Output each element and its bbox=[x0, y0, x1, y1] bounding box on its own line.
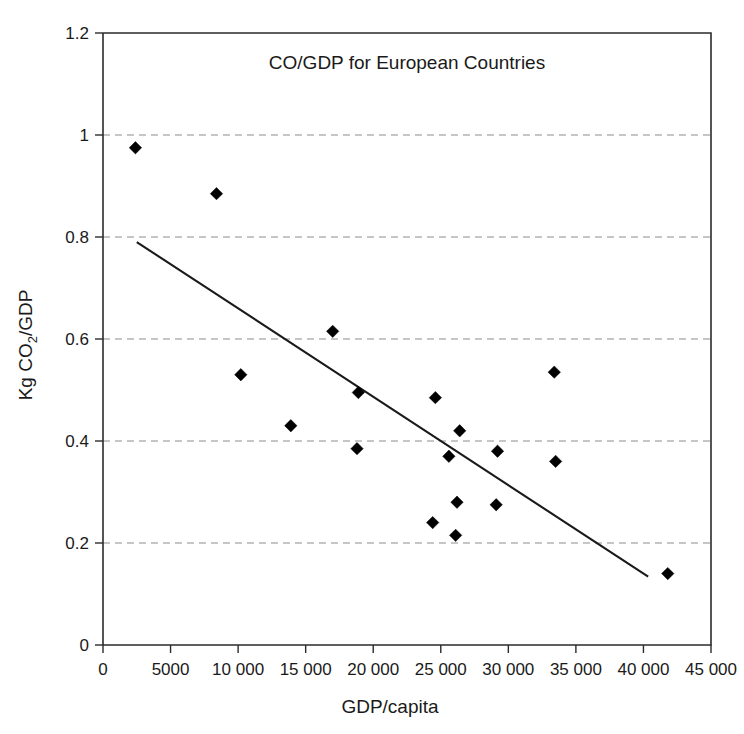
x-tick-label: 20 000 bbox=[347, 660, 399, 679]
x-tick-label: 5000 bbox=[152, 660, 190, 679]
x-tick-label: 15 000 bbox=[280, 660, 332, 679]
x-tick-label: 35 000 bbox=[550, 660, 602, 679]
y-axis-title-subscript: 2 bbox=[25, 336, 40, 343]
x-tick-label: 30 000 bbox=[482, 660, 534, 679]
y-tick-label: 0.4 bbox=[65, 432, 89, 451]
y-tick-label: 0.8 bbox=[65, 228, 89, 247]
x-tick-label: 40 000 bbox=[617, 660, 669, 679]
y-tick-label: 0.2 bbox=[65, 534, 89, 553]
y-tick-label: 0 bbox=[80, 636, 89, 655]
y-tick-label: 0.6 bbox=[65, 330, 89, 349]
x-tick-label: 10 000 bbox=[212, 660, 264, 679]
chart-background bbox=[0, 0, 744, 734]
x-tick-label: 45 000 bbox=[685, 660, 737, 679]
scatter-chart: 0500010 00015 00020 00025 00030 00035 00… bbox=[0, 0, 744, 734]
y-axis-title-suffix: /GDP bbox=[15, 290, 36, 336]
x-tick-label: 0 bbox=[98, 660, 107, 679]
x-axis-title: GDP/capita bbox=[341, 696, 439, 717]
chart-title: CO/GDP for European Countries bbox=[269, 52, 545, 73]
chart-canvas: 0500010 00015 00020 00025 00030 00035 00… bbox=[0, 0, 744, 734]
y-tick-label: 1 bbox=[80, 126, 89, 145]
y-axis-title-prefix: Kg CO bbox=[15, 343, 36, 400]
x-tick-label: 25 000 bbox=[415, 660, 467, 679]
y-tick-label: 1.2 bbox=[65, 24, 89, 43]
